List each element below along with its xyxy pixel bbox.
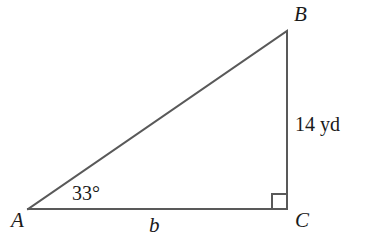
vertex-label-a: A <box>11 210 24 231</box>
side-length-label: 14 yd <box>295 114 340 134</box>
side-label-b: b <box>149 215 160 236</box>
right-angle-marker-icon <box>272 194 287 209</box>
vertex-label-c: C <box>295 210 309 231</box>
angle-measure-label: 33° <box>72 183 100 203</box>
diagram-canvas: A B C b 33° 14 yd <box>0 0 367 251</box>
triangle-outline <box>28 31 287 209</box>
vertex-label-b: B <box>294 4 307 25</box>
